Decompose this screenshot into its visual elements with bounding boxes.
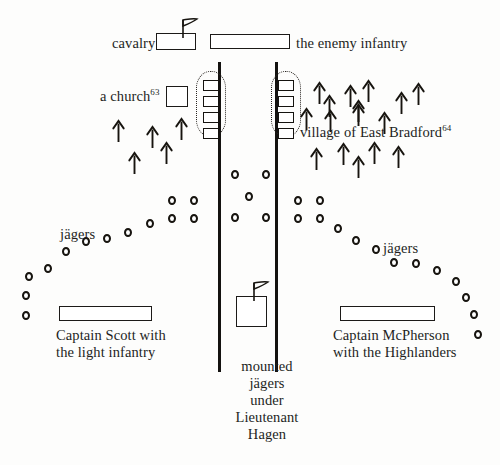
jager-skirmisher-east-2 xyxy=(316,196,324,205)
scott-caption: Captain Scott withthe light infantry xyxy=(56,327,166,361)
village-house-east-2 xyxy=(278,96,294,107)
battle-map-figure: cavalrythe enemy infantrya church63villa… xyxy=(0,0,500,465)
enemy-infantry-unit-box xyxy=(210,34,290,49)
jager-skirmisher-west-7 xyxy=(103,234,111,243)
jager-skirmisher-center-1 xyxy=(231,170,239,179)
jager-skirmisher-center-3 xyxy=(245,192,253,201)
jager-skirmisher-east-5 xyxy=(334,224,342,233)
jager-skirmisher-west-10 xyxy=(44,264,52,273)
cavalry-unit-box-pennant xyxy=(180,18,200,38)
jager-skirmisher-east-7 xyxy=(372,245,380,254)
jager-skirmisher-west-12 xyxy=(22,291,30,300)
mcpherson-highlanders-box xyxy=(340,306,435,321)
cavalry-label: cavalry xyxy=(112,35,155,52)
jagers-west-label: jägers xyxy=(60,226,95,243)
village-house-west-4 xyxy=(203,128,219,139)
jager-skirmisher-west-6 xyxy=(124,228,132,237)
enemy-advance-arrow-west-3 xyxy=(175,118,188,140)
enemy-advance-arrow-west-1 xyxy=(112,120,125,142)
jager-skirmisher-east-11 xyxy=(452,277,460,286)
village-house-east-4 xyxy=(278,128,294,139)
jager-skirmisher-east-14 xyxy=(474,330,482,339)
enemy-advance-arrow-east-13 xyxy=(337,143,350,165)
jager-skirmisher-west-9 xyxy=(62,247,70,256)
jager-skirmisher-east-13 xyxy=(470,310,478,319)
enemy-advance-arrow-east-10 xyxy=(352,104,365,126)
mcpherson-caption: Captain McPhersonwith the Highlanders xyxy=(333,327,457,361)
village-house-west-1 xyxy=(203,80,219,91)
jager-skirmisher-center-2 xyxy=(262,170,270,179)
scott-light-infantry-box xyxy=(59,306,152,321)
village-house-east-3 xyxy=(278,112,294,123)
jager-skirmisher-west-11 xyxy=(25,272,33,281)
jagers-east-label: jägers xyxy=(383,240,418,257)
jager-skirmisher-west-5 xyxy=(146,219,154,228)
enemy-advance-arrow-west-4 xyxy=(160,142,173,164)
village-house-west-2 xyxy=(203,96,219,107)
jager-skirmisher-east-1 xyxy=(294,196,302,205)
jager-skirmisher-west-4 xyxy=(190,214,198,223)
village-house-east-1 xyxy=(278,80,294,91)
jager-skirmisher-east-8 xyxy=(390,258,398,267)
jager-skirmisher-center-4 xyxy=(231,213,239,222)
jager-skirmisher-east-3 xyxy=(294,214,302,223)
footnote-marker: 64 xyxy=(442,123,451,133)
footnote-marker: 63 xyxy=(150,87,159,97)
church-label: a church63 xyxy=(100,88,160,105)
jager-skirmisher-center-5 xyxy=(262,213,270,222)
enemy-infantry-label: the enemy infantry xyxy=(296,35,407,52)
jager-skirmisher-east-6 xyxy=(352,236,360,245)
enemy-advance-arrow-east-14 xyxy=(352,156,365,178)
church-symbol-box xyxy=(166,86,188,107)
enemy-advance-arrow-east-12 xyxy=(310,148,323,170)
enemy-advance-arrow-east-16 xyxy=(392,146,405,168)
enemy-advance-arrow-west-5 xyxy=(128,152,141,174)
jager-skirmisher-west-1 xyxy=(168,196,176,205)
village-label: village of East Bradford64 xyxy=(300,124,451,141)
jager-skirmisher-west-2 xyxy=(190,196,198,205)
mounted-jagers-caption: mountedjägersunderLieutenantHagen xyxy=(217,358,317,444)
mounted-jagers-box-pennant xyxy=(251,281,271,301)
enemy-advance-arrow-east-15 xyxy=(368,142,381,164)
jager-skirmisher-west-3 xyxy=(168,214,176,223)
jager-skirmisher-west-13 xyxy=(22,311,30,320)
jager-skirmisher-east-9 xyxy=(412,259,420,268)
jager-skirmisher-east-10 xyxy=(433,266,441,275)
enemy-advance-arrow-east-4 xyxy=(362,80,375,102)
village-house-west-3 xyxy=(203,112,219,123)
jager-skirmisher-east-4 xyxy=(316,214,324,223)
enemy-advance-arrow-east-7 xyxy=(412,83,425,105)
enemy-advance-arrow-east-6 xyxy=(395,92,408,114)
enemy-advance-arrow-west-2 xyxy=(146,126,159,148)
jager-skirmisher-east-12 xyxy=(462,293,470,302)
